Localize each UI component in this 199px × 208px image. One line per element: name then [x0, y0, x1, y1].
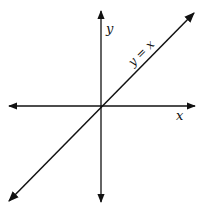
x-axis-label: x [176, 108, 184, 123]
line-label: y = x [125, 37, 158, 70]
coordinate-plane: y x y = x [0, 0, 199, 208]
y-axis-label: y [105, 21, 114, 36]
